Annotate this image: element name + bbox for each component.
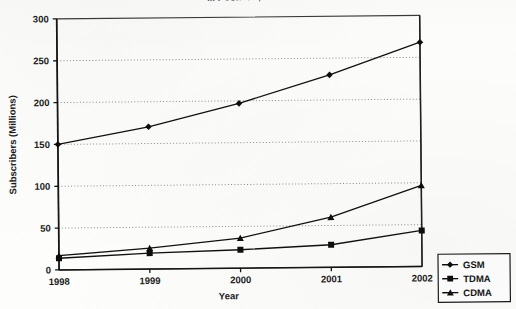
chart-figure: 05010015020025030019981999200020012002Su… [0,0,516,309]
data-point-tdma-2001 [328,242,334,248]
data-point-cdma-2002 [418,182,425,188]
x-tick-label-1998: 1998 [49,276,70,287]
gridline-y-250 [57,57,420,60]
y-tick-label-50: 50 [40,223,51,234]
gridline-y-150 [58,141,421,144]
legend-label-cdma: CDMA [463,287,492,298]
y-tick-label-200: 200 [34,97,50,108]
data-point-gsm-2000 [236,100,243,107]
y-tick-label-0: 0 [46,264,51,275]
series-line-gsm [57,42,421,144]
x-tick-label-2001: 2001 [321,273,343,284]
x-axis-title: Year [219,290,239,301]
y-axis-title: Subscribers (Millions) [6,95,18,194]
y-tick-label-100: 100 [34,181,50,192]
legend-label-tdma: TDMA [463,273,491,284]
x-tick-label-2000: 2000 [230,274,251,285]
data-point-gsm-2001 [326,72,333,79]
gridline-y-50 [59,225,422,228]
chart-title-clipped: ... PCS/PCN, and TDMA [0,0,516,9]
legend-label-gsm: GSM [463,259,485,270]
x-tick-label-2002: 2002 [412,272,433,283]
data-point-gsm-1999 [145,123,152,130]
legend-marker-tdma-icon [447,276,453,282]
series-line-cdma [58,185,422,255]
y-tick-label-300: 300 [33,13,49,24]
data-point-gsm-1998 [55,141,62,148]
chart-title: ... PCS/PCN, and TDMA [207,0,309,3]
y-tick-label-250: 250 [33,55,49,66]
line-chart: 05010015020025030019981999200020012002Su… [0,0,516,309]
data-point-tdma-2000 [237,247,243,253]
plot-frame [57,15,422,269]
gridline-y-100 [58,183,421,186]
series-line-tdma [59,230,422,258]
data-point-tdma-2002 [419,227,425,233]
y-tick-label-150: 150 [34,139,50,150]
x-tick-label-1999: 1999 [139,275,160,286]
data-point-gsm-2002 [417,39,424,46]
